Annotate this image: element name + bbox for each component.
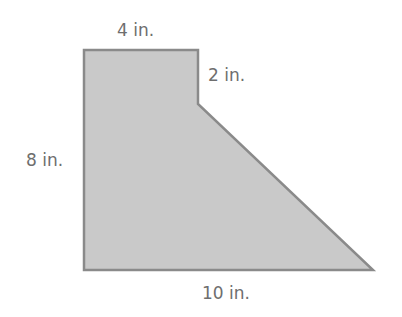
figure-canvas: 4 in. 2 in. 8 in. 10 in. xyxy=(0,0,402,317)
top-side-label: 4 in. xyxy=(117,22,154,39)
bottom-side-label: 10 in. xyxy=(202,285,250,302)
notch-side-label: 2 in. xyxy=(208,67,245,84)
left-side-label: 8 in. xyxy=(26,152,63,169)
